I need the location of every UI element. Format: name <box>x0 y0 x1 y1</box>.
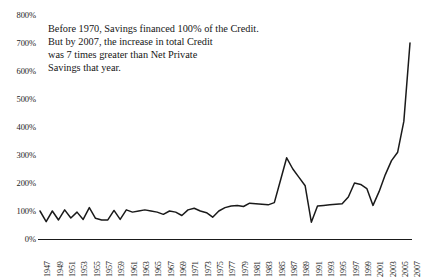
x-axis-tick-label: 1961 <box>130 261 139 277</box>
x-axis-tick-label: 1987 <box>290 261 299 277</box>
x-axis-tick-label: 1963 <box>142 261 151 277</box>
x-axis-tick-label: 1965 <box>154 261 163 277</box>
x-axis-tick-label: 1983 <box>265 261 274 277</box>
x-axis-tick-label: 1971 <box>191 261 200 277</box>
x-axis-tick-label: 1975 <box>216 261 225 277</box>
x-axis-tick-label: 1953 <box>80 261 89 277</box>
x-axis-tick-label: 1955 <box>93 261 102 277</box>
x-axis-tick-label: 1973 <box>204 261 213 277</box>
x-axis-tick-label: 1989 <box>302 261 311 277</box>
x-axis-tick-label: 1991 <box>315 261 324 277</box>
x-axis-tick-label: 1995 <box>339 261 348 277</box>
x-axis-tick-label: 1997 <box>352 261 361 277</box>
x-axis-tick-label: 1999 <box>364 261 373 277</box>
x-axis-tick-label: 1949 <box>56 261 65 277</box>
x-axis-tick-label: 1969 <box>179 261 188 277</box>
x-axis-tick-label: 2007 <box>413 261 422 277</box>
x-axis-tick-label: 1981 <box>253 261 262 277</box>
x-axis-tick-label: 1977 <box>228 261 237 277</box>
x-axis-tick-label: 1985 <box>278 261 287 277</box>
x-axis-tick-label: 2005 <box>401 261 410 277</box>
x-axis-tick-label: 1979 <box>241 261 250 277</box>
x-axis-tick-label: 1947 <box>43 261 52 277</box>
x-axis-tick-label: 1957 <box>105 261 114 277</box>
x-axis-tick-label: 1959 <box>117 261 126 277</box>
x-axis-tick-label: 1993 <box>327 261 336 277</box>
x-axis-tick-label: 2003 <box>389 261 398 277</box>
x-axis-tick-label: 1951 <box>68 261 77 277</box>
x-axis-tick-label: 2001 <box>376 261 385 277</box>
x-axis-tick-label: 1967 <box>167 261 176 277</box>
